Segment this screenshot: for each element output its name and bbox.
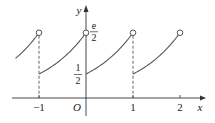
origin-label: O: [73, 101, 81, 113]
labels: −112e212Oxy: [33, 4, 202, 113]
axes: [12, 5, 206, 116]
function-graph: −112e212Oxy: [0, 0, 215, 123]
open-endpoint: [36, 30, 42, 36]
curve-piece: [133, 33, 180, 74]
half-numerator: 1: [76, 62, 81, 73]
x-axis-label: x: [197, 101, 203, 113]
y-axis-label: y: [76, 4, 82, 16]
x-tick-label: 1: [130, 101, 136, 113]
e-over-2-denominator: 2: [92, 32, 97, 43]
x-tick-label: 2: [177, 101, 183, 113]
curves: [16, 33, 181, 98]
open-endpoint: [130, 30, 136, 36]
open-endpoint: [83, 30, 89, 36]
marks: [36, 30, 183, 36]
half-denominator: 2: [76, 75, 81, 86]
x-tick-label: −1: [33, 101, 45, 113]
e-over-2-numerator: e: [92, 20, 97, 31]
open-endpoint: [177, 30, 183, 36]
x-axis-arrow: [200, 96, 206, 101]
y-axis-arrow: [84, 5, 89, 12]
curve-piece: [16, 33, 40, 59]
